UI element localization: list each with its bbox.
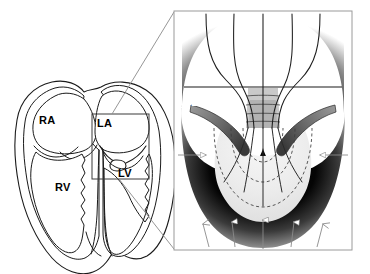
inset-label-lv: LV bbox=[192, 121, 206, 133]
heart-label-ra: RA bbox=[39, 115, 56, 126]
heart-label-rv: RV bbox=[55, 182, 71, 193]
inset-panel-layer bbox=[0, 0, 370, 274]
figure-root: RA LA RV LV LA LV bbox=[0, 0, 370, 274]
inset-label-la: LA bbox=[191, 97, 207, 109]
heart-label-lv: LV bbox=[118, 168, 132, 179]
heart-label-la: LA bbox=[97, 118, 112, 129]
